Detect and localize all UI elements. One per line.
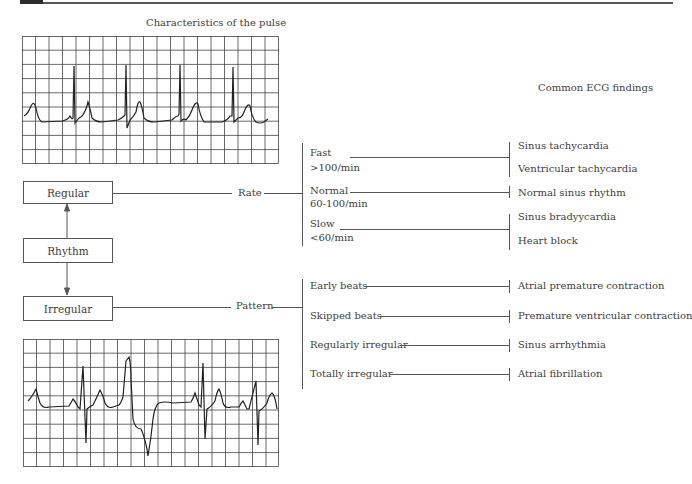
early-beats-label: Early beats: [310, 280, 368, 292]
pattern-label: Pattern: [236, 300, 273, 312]
header-block: [20, 0, 43, 4]
arrow-up-icon: [65, 204, 70, 211]
pattern-bracket: [302, 279, 303, 389]
pulse-title: Characteristics of the pulse: [146, 17, 286, 29]
fast-findings-bracket: [509, 142, 510, 177]
irregular-pattern-line: [113, 307, 231, 308]
finding-ventricular-tachycardia: Ventricular tachycardia: [518, 163, 637, 175]
rate-bracket: [302, 143, 303, 246]
arrow-down-icon: [65, 288, 70, 295]
regular-label: Regular: [47, 187, 89, 199]
pattern-bracket-line: [272, 307, 302, 308]
fast-label: Fast: [310, 147, 331, 159]
fast-sub: >100/min: [310, 162, 360, 174]
skipped-beats-label: Skipped beats: [310, 310, 382, 322]
normal-label: Normal: [310, 185, 348, 197]
early-beats-line: [365, 286, 509, 287]
regularly-irregular-line: [400, 345, 509, 346]
regularly-irregular-label: Regularly irregular: [310, 339, 408, 351]
regular-box: Regular: [23, 181, 113, 204]
ecg-strip-regular: [22, 36, 279, 164]
finding-atrial-premature-contraction: Atrial premature contraction: [518, 280, 664, 292]
slow-sub: <60/min: [310, 232, 354, 244]
slow-findings-bracket: [509, 214, 510, 250]
finding-sinus-arrhythmia: Sinus arrhythmia: [518, 339, 606, 351]
finding-premature-ventricular-contraction: Premature ventricular contraction: [518, 310, 692, 322]
regular-rate-line: [113, 193, 232, 194]
findings-title: Common ECG findings: [538, 82, 653, 94]
normal-sub: 60-100/min: [310, 198, 368, 210]
normal-line: [350, 192, 509, 193]
totally-irregular-line: [390, 374, 509, 375]
early-beats-tick: [509, 280, 510, 293]
finding-atrial-fibrillation: Atrial fibrillation: [518, 368, 602, 380]
header-rule: [43, 2, 673, 4]
totally-irregular-tick: [509, 368, 510, 381]
ecg-strip-irregular: [23, 339, 279, 467]
slow-label: Slow: [310, 218, 335, 230]
totally-irregular-label: Totally irregular: [310, 368, 393, 380]
finding-sinus-tachycardia: Sinus tachycardia: [518, 140, 609, 152]
finding-normal-sinus-rhythm: Normal sinus rhythm: [518, 187, 626, 199]
irregular-box: Irregular: [23, 296, 113, 321]
finding-heart-block: Heart block: [518, 235, 578, 247]
skipped-beats-tick: [509, 310, 510, 323]
finding-sinus-bradycardia: Sinus bradyycardia: [518, 211, 616, 223]
normal-findings-tick: [509, 186, 510, 198]
rate-bracket-line: [264, 193, 302, 194]
rhythm-arrows: [60, 203, 74, 297]
irregular-label: Irregular: [44, 303, 93, 315]
regularly-irregular-tick: [509, 339, 510, 352]
rate-label: Rate: [238, 187, 262, 199]
slow-line: [340, 229, 509, 230]
skipped-beats-line: [380, 316, 509, 317]
fast-line: [350, 157, 509, 158]
